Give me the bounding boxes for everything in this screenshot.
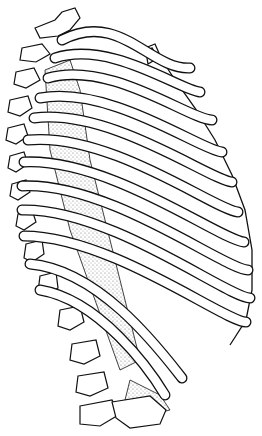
rib-cage-drawing [0, 0, 262, 436]
rib-cage-illustration [0, 0, 262, 436]
